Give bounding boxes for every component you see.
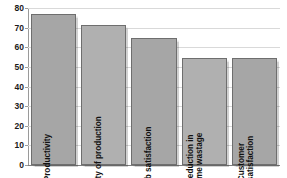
bars-group: ProductivityQuality of productionJob sat… xyxy=(28,8,280,165)
y-axis-tick-label: 70 xyxy=(15,23,24,32)
y-axis-tick-label: 0 xyxy=(19,161,24,170)
y-axis-tick-label: 60 xyxy=(15,43,24,52)
bar-category-label: Productivity xyxy=(45,134,54,178)
y-axis-tick-label: 40 xyxy=(15,82,24,91)
y-axis-tick xyxy=(25,165,28,166)
y-axis-tick-label: 30 xyxy=(15,102,24,111)
bar-category-label: Customer satisfaction xyxy=(236,135,254,178)
y-axis-tick-label: 80 xyxy=(15,4,24,13)
bar: Job satisfaction xyxy=(131,38,176,165)
y-axis-tick-label: 20 xyxy=(15,122,24,131)
bar: Customer satisfaction xyxy=(232,58,277,165)
bar: Productivity xyxy=(31,14,76,165)
bar-category-label: Quality of production xyxy=(95,117,104,178)
bar-category-label: Job satisfaction xyxy=(145,127,154,178)
bar: Reduction in time wastage xyxy=(182,58,227,165)
bar-category-label: Reduction in time wastage xyxy=(186,132,204,178)
bar-chart: 01020304050607080 ProductivityQuality of… xyxy=(0,0,287,178)
plot-area: 01020304050607080 ProductivityQuality of… xyxy=(28,8,280,165)
bar: Quality of production xyxy=(81,25,126,165)
y-axis-tick-label: 10 xyxy=(15,141,24,150)
y-axis-tick-label: 50 xyxy=(15,63,24,72)
